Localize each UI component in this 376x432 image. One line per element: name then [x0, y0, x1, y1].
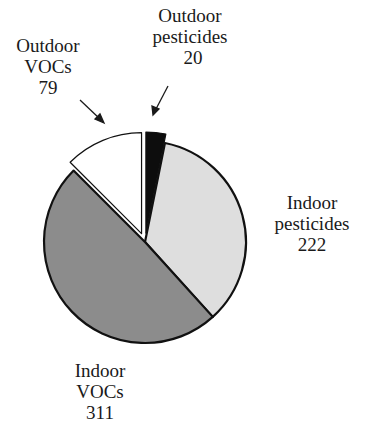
label-arrows [80, 86, 168, 123]
label-indoor-pesticides: Indoor pesticides 222 [262, 192, 362, 255]
label-outdoor-pesticides-line1: Outdoor [135, 5, 245, 26]
label-outdoor-vocs-line1: Outdoor [8, 35, 88, 56]
label-outdoor-vocs-value: 79 [8, 77, 88, 98]
label-indoor-vocs-value: 311 [55, 402, 145, 423]
label-indoor-vocs-line2: VOCs [55, 381, 145, 402]
label-outdoor-vocs-line2: VOCs [8, 56, 88, 77]
label-outdoor-pesticides-value: 20 [135, 47, 245, 68]
arrowhead-outdoor-pesticides-icon [152, 106, 159, 115]
arrow-outdoor-pesticides [156, 86, 168, 109]
label-indoor-vocs: Indoor VOCs 311 [55, 360, 145, 423]
label-indoor-pesticides-value: 222 [262, 234, 362, 255]
label-indoor-vocs-line1: Indoor [55, 360, 145, 381]
label-outdoor-pesticides-line2: pesticides [135, 26, 245, 47]
label-indoor-pesticides-line1: Indoor [262, 192, 362, 213]
label-outdoor-pesticides: Outdoor pesticides 20 [135, 5, 245, 68]
label-indoor-pesticides-line2: pesticides [262, 213, 362, 234]
pie-slices [44, 132, 246, 343]
label-outdoor-vocs: Outdoor VOCs 79 [8, 35, 88, 98]
